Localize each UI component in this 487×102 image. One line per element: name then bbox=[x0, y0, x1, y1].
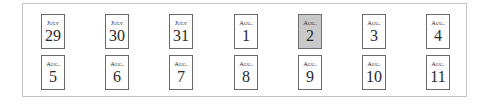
day-cell-aug-1[interactable]: Aug.1 bbox=[234, 14, 258, 49]
day-number: 2 bbox=[299, 27, 321, 44]
month-label: July bbox=[106, 19, 128, 26]
month-label: July bbox=[170, 19, 192, 26]
month-label: Aug. bbox=[427, 19, 449, 26]
month-label: July bbox=[42, 19, 64, 26]
month-label: Aug. bbox=[235, 60, 257, 67]
day-number: 1 bbox=[235, 27, 257, 44]
month-label: Aug. bbox=[106, 60, 128, 67]
month-label: Aug. bbox=[427, 60, 449, 67]
day-number: 6 bbox=[106, 68, 128, 85]
day-cell-july-29[interactable]: July29 bbox=[41, 14, 65, 49]
day-cell-july-31[interactable]: July31 bbox=[169, 14, 193, 49]
day-number: 31 bbox=[170, 27, 192, 44]
month-label: Aug. bbox=[170, 60, 192, 67]
day-cell-aug-9[interactable]: Aug.9 bbox=[298, 55, 322, 90]
month-label: Aug. bbox=[363, 60, 385, 67]
day-number: 10 bbox=[363, 68, 385, 85]
day-number: 29 bbox=[42, 27, 64, 44]
day-cell-aug-2-selected[interactable]: Aug.2 bbox=[298, 14, 322, 49]
day-number: 11 bbox=[427, 68, 449, 85]
day-cell-aug-5[interactable]: Aug.5 bbox=[41, 55, 65, 90]
month-label: Aug. bbox=[299, 60, 321, 67]
day-number: 9 bbox=[299, 68, 321, 85]
day-cell-aug-6[interactable]: Aug.6 bbox=[105, 55, 129, 90]
day-cell-aug-11[interactable]: Aug.11 bbox=[426, 55, 450, 90]
day-cell-aug-8[interactable]: Aug.8 bbox=[234, 55, 258, 90]
day-number: 5 bbox=[42, 68, 64, 85]
day-cell-aug-7[interactable]: Aug.7 bbox=[169, 55, 193, 90]
day-cell-aug-3[interactable]: Aug.3 bbox=[362, 14, 386, 49]
day-number: 4 bbox=[427, 27, 449, 44]
day-number: 30 bbox=[106, 27, 128, 44]
day-number: 7 bbox=[170, 68, 192, 85]
month-label: Aug. bbox=[235, 19, 257, 26]
month-label: Aug. bbox=[299, 19, 321, 26]
day-number: 3 bbox=[363, 27, 385, 44]
day-cell-july-30[interactable]: July30 bbox=[105, 14, 129, 49]
day-cell-aug-10[interactable]: Aug.10 bbox=[362, 55, 386, 90]
day-cell-aug-4[interactable]: Aug.4 bbox=[426, 14, 450, 49]
day-number: 8 bbox=[235, 68, 257, 85]
month-label: Aug. bbox=[42, 60, 64, 67]
month-label: Aug. bbox=[363, 19, 385, 26]
